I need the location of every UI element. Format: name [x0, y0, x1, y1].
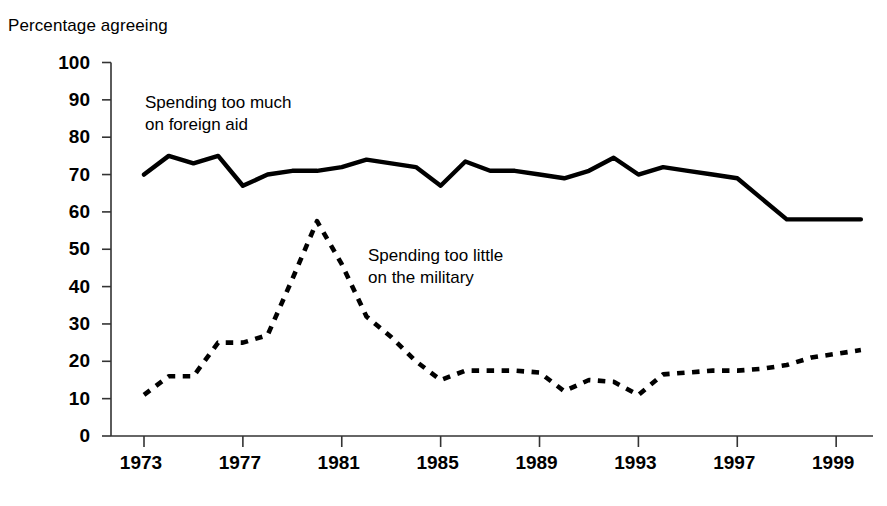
- series-label-military-line2: on the military: [368, 268, 474, 287]
- series-label-foreign-aid-line1: Spending too much: [145, 93, 292, 112]
- series-label-foreign-aid: Spending too muchon foreign aid: [145, 92, 292, 137]
- chart-container: Percentage agreeing 10090807060504030201…: [0, 0, 887, 506]
- series-label-foreign-aid-line2: on foreign aid: [145, 115, 248, 134]
- series-label-military: Spending too littleon the military: [368, 245, 503, 290]
- series-label-military-line1: Spending too little: [368, 246, 503, 265]
- series-line-foreign-aid: [144, 156, 861, 219]
